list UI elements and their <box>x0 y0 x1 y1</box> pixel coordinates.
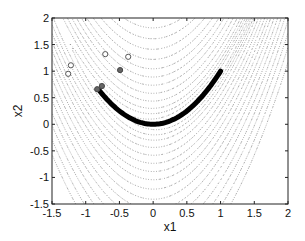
y-tick-label: 0 <box>43 118 49 130</box>
y-tick-label: -0.5 <box>30 145 49 157</box>
x-tick-label: 1 <box>218 207 224 219</box>
x-axis-label: x1 <box>164 220 177 234</box>
y-axis-label: x2 <box>11 104 25 117</box>
open-point-marker <box>103 52 108 57</box>
x-tick-label: 0 <box>150 207 156 219</box>
contour-plot: -1.5-1-0.500.511.52-1.5-1-0.500.511.52 x… <box>0 0 305 241</box>
x-tick-label: -1 <box>81 207 91 219</box>
y-tick-label: -1.5 <box>30 198 49 210</box>
y-tick-label: 1 <box>43 65 49 77</box>
filled-point-marker <box>95 87 100 92</box>
x-tick-label: -0.5 <box>110 207 129 219</box>
y-tick-label: -1 <box>39 171 49 183</box>
y-tick-label: 0.5 <box>34 92 49 104</box>
x-tick-label: 0.5 <box>179 207 194 219</box>
y-tick-label: 1.5 <box>34 39 49 51</box>
open-point-marker <box>66 71 71 76</box>
open-point-marker <box>68 63 73 68</box>
filled-point-marker <box>99 83 104 88</box>
x-tick-label: 1.5 <box>247 207 262 219</box>
y-tick-label: 2 <box>43 12 49 24</box>
x-tick-label: 2 <box>285 207 291 219</box>
filled-point-marker <box>118 67 123 72</box>
open-point-marker <box>126 54 131 59</box>
